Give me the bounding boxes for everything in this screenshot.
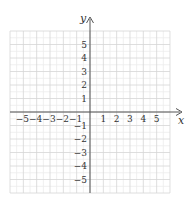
y-tick-label: 4	[81, 53, 87, 63]
x-tick-label: 5	[154, 114, 160, 124]
y-tick-label: −5	[74, 175, 88, 185]
y-tick-label: 1	[81, 94, 87, 104]
x-tick-label: 1	[100, 114, 106, 124]
y-tick-label: −3	[74, 148, 88, 158]
x-tick-label: −5	[16, 114, 30, 124]
x-tick-label: 2	[114, 114, 120, 124]
x-tick-label: −4	[29, 114, 43, 124]
x-tick-label: −3	[42, 114, 56, 124]
x-tick-label: 3	[127, 114, 133, 124]
x-tick-label: −2	[56, 114, 69, 124]
y-tick-label: −2	[74, 134, 87, 144]
coordinate-grid-svg: x y −5−4−3−2−112345 54321−1−2−3−4−5	[0, 0, 193, 207]
y-axis-label: y	[79, 12, 87, 25]
x-axis-label: x	[178, 114, 185, 127]
y-tick-label: 3	[81, 67, 87, 77]
coordinate-plane: x y −5−4−3−2−112345 54321−1−2−3−4−5	[0, 0, 193, 207]
y-tick-label: −1	[74, 121, 87, 131]
x-tick-label: 4	[140, 114, 146, 124]
y-tick-label: −4	[74, 161, 88, 171]
y-tick-label: 5	[81, 40, 87, 50]
y-tick-label: 2	[81, 80, 87, 90]
